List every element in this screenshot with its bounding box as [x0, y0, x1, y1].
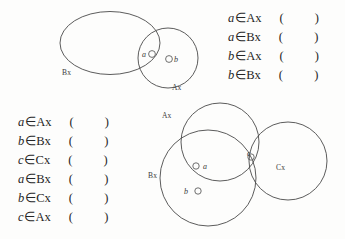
answer-blank[interactable]: ( )	[69, 134, 122, 149]
element-of-icon: ∈	[24, 172, 36, 186]
statement-expression: c∈Ax	[18, 209, 51, 225]
answer-blank[interactable]: ( )	[280, 49, 333, 64]
set-label-bx: Bx	[62, 68, 71, 77]
statement-row: b∈Ax ( )	[228, 48, 333, 67]
set-shape-cx	[249, 122, 327, 200]
point-marker-a	[149, 51, 156, 58]
set-shape-bx	[160, 130, 256, 226]
statement-expression: b∈Bx	[18, 133, 51, 149]
set-label-ax: Ax	[162, 111, 172, 120]
statement-expression: b∈Bx	[228, 67, 261, 83]
statement-expression: a∈Bx	[18, 171, 51, 187]
statement-expression: a∈Bx	[228, 29, 261, 45]
statement-expression: b∈Cx	[18, 190, 51, 206]
element-of-icon: ∈	[24, 191, 36, 205]
worksheet-page: Bx Ax a b a∈Ax ( ) a∈Bx ( ) b∈Ax ( ) b∈B…	[0, 0, 345, 239]
statement-expression: a∈Ax	[228, 10, 262, 26]
statement-row: b∈Bx ( )	[228, 67, 333, 86]
answer-blank[interactable]: ( )	[68, 153, 121, 168]
statement-set: Bx	[246, 30, 261, 44]
element-of-icon: ∈	[234, 30, 246, 44]
answer-blank[interactable]: ( )	[279, 68, 332, 83]
statement-row: a∈Ax ( )	[18, 114, 123, 133]
statement-row: c∈Ax ( )	[18, 209, 123, 228]
statement-set: Ax	[36, 115, 51, 129]
two-set-venn-svg	[0, 0, 215, 100]
answer-blank[interactable]: ( )	[280, 11, 333, 26]
set-label-cx: Cx	[276, 163, 285, 172]
statement-set: Bx	[36, 172, 51, 186]
two-set-venn-diagram: Bx Ax a b	[0, 0, 215, 100]
point-marker-a	[193, 163, 199, 169]
statement-set: Ax	[246, 49, 261, 63]
statement-set: Bx	[246, 68, 261, 82]
set-label-ax: Ax	[172, 83, 182, 92]
element-of-icon: ∈	[234, 11, 246, 25]
statement-expression: b∈Ax	[228, 48, 262, 64]
point-label-c: c	[247, 149, 251, 158]
answer-blank[interactable]: ( )	[69, 210, 122, 225]
statement-variable: c	[18, 153, 24, 167]
point-label-b: b	[184, 187, 188, 196]
statement-row: a∈Ax ( )	[228, 10, 333, 29]
statement-row: a∈Bx ( )	[18, 171, 123, 190]
element-of-icon: ∈	[24, 153, 36, 167]
statement-expression: a∈Ax	[18, 114, 52, 130]
membership-statements-bottom-left: a∈Ax ( ) b∈Bx ( ) c∈Cx ( ) a∈Bx ( ) b∈Cx…	[18, 114, 123, 228]
three-set-venn-svg	[148, 103, 345, 239]
statement-row: b∈Cx ( )	[18, 190, 123, 209]
answer-blank[interactable]: ( )	[69, 191, 122, 206]
statement-expression: c∈Cx	[18, 152, 50, 168]
answer-blank[interactable]: ( )	[279, 30, 332, 45]
statement-set: Cx	[36, 153, 51, 167]
answer-blank[interactable]: ( )	[69, 172, 122, 187]
statement-row: b∈Bx ( )	[18, 133, 123, 152]
statement-set: Bx	[36, 134, 51, 148]
membership-statements-top-right: a∈Ax ( ) a∈Bx ( ) b∈Ax ( ) b∈Bx ( )	[228, 10, 333, 86]
set-label-bx: Bx	[148, 171, 157, 180]
statement-set: Cx	[36, 191, 51, 205]
element-of-icon: ∈	[234, 49, 246, 63]
element-of-icon: ∈	[234, 68, 246, 82]
statement-variable: c	[18, 210, 24, 224]
three-set-venn-diagram: Ax Bx Cx a b c	[148, 103, 345, 239]
statement-set: Ax	[246, 11, 261, 25]
set-shape-bx	[60, 12, 160, 75]
element-of-icon: ∈	[24, 134, 36, 148]
statement-set: Ax	[36, 210, 51, 224]
point-marker-b	[166, 56, 173, 63]
statement-row: c∈Cx ( )	[18, 152, 123, 171]
point-marker-b	[195, 188, 201, 194]
element-of-icon: ∈	[24, 210, 36, 224]
set-shape-ax	[181, 103, 259, 181]
element-of-icon: ∈	[24, 115, 36, 129]
point-label-a: a	[203, 162, 207, 171]
answer-blank[interactable]: ( )	[70, 115, 123, 130]
set-shape-ax	[138, 28, 198, 88]
point-label-a: a	[142, 50, 146, 59]
statement-row: a∈Bx ( )	[228, 29, 333, 48]
point-label-b: b	[174, 55, 178, 64]
